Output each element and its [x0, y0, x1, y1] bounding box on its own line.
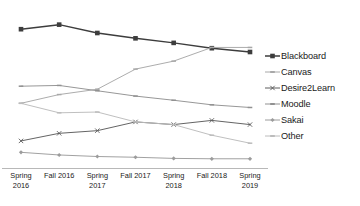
legend-item-canvas[interactable]: Canvas — [264, 64, 360, 80]
x-tick-label-line: 2017 — [75, 181, 119, 191]
legend-marker-icon — [264, 130, 281, 142]
legend-marker-icon — [264, 66, 281, 78]
data-point-marker — [172, 156, 176, 160]
legend-item-label: Desire2Learn — [281, 83, 335, 93]
data-point-marker — [95, 31, 100, 36]
x-tick-label-line: 2019 — [228, 181, 272, 191]
legend-marker-icon — [264, 114, 281, 126]
legend-item-desire2learn[interactable]: Desire2Learn — [264, 80, 360, 96]
x-tick-label-line: 2018 — [152, 181, 196, 191]
legend-item-blackboard[interactable]: Blackboard — [264, 48, 360, 64]
legend-item-label: Canvas — [281, 67, 312, 77]
data-point-marker — [19, 150, 23, 154]
legend-item-other[interactable]: Other — [264, 128, 360, 144]
data-point-marker — [95, 154, 99, 158]
x-tick-label-line: 2016 — [0, 181, 43, 191]
series-moodle — [19, 85, 253, 107]
data-point-marker — [133, 36, 138, 41]
series-line — [21, 120, 250, 141]
data-point-marker — [171, 41, 176, 46]
legend-item-label: Other — [281, 131, 303, 141]
series-blackboard — [19, 22, 253, 54]
legend-marker-icon — [264, 82, 281, 94]
legend-item-label: Moodle — [281, 99, 311, 109]
legend-item-label: Blackboard — [281, 51, 326, 61]
line-chart: Spring2016Fall 2016Spring2017Fall 2017Sp… — [0, 0, 360, 206]
chart-legend: BlackboardCanvasDesire2LearnMoodleSakaiO… — [264, 48, 360, 144]
series-canvas — [19, 47, 253, 103]
legend-item-sakai[interactable]: Sakai — [264, 112, 360, 128]
data-point-marker — [57, 153, 61, 157]
x-tick-label-line: Spring — [228, 171, 272, 181]
series-line — [21, 47, 250, 103]
series-sakai — [19, 150, 252, 161]
legend-marker-icon — [264, 50, 281, 62]
data-point-marker — [248, 50, 253, 55]
data-point-marker — [19, 27, 24, 32]
data-point-marker — [133, 155, 137, 159]
x-axis-tick-labels: Spring2016Fall 2016Spring2017Fall 2017Sp… — [0, 171, 270, 205]
legend-item-label: Sakai — [281, 115, 303, 125]
plot-area — [0, 0, 270, 175]
data-point-marker — [210, 157, 214, 161]
legend-item-moodle[interactable]: Moodle — [264, 96, 360, 112]
data-point-marker — [248, 157, 252, 161]
series-line — [21, 103, 250, 143]
data-point-marker — [57, 22, 62, 27]
series-other — [19, 103, 253, 143]
x-tick-label: Spring2019 — [228, 171, 272, 190]
legend-marker-icon — [264, 98, 281, 110]
